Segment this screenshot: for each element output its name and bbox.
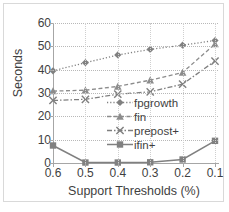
legend-label: ifin+ [134,139,155,151]
x-axis-tick [215,163,216,167]
y-axis-tick [49,46,53,47]
legend-item-prepost+[interactable]: prepost+ [107,124,179,137]
vertical-gridline [85,23,86,163]
triangle-marker-icon [107,111,133,122]
x-axis-tick [150,163,151,167]
x-axis-tick [118,163,119,167]
vertical-gridline [183,23,184,163]
legend-label: fpgrowth [134,97,178,109]
x-axis-tick-label: 0.1 [195,167,229,180]
gridline [53,93,218,94]
x-axis-tick [53,163,54,167]
x-axis-tick [85,163,86,167]
diamond-marker-icon [107,97,133,108]
legend-item-fpgrowth[interactable]: fpgrowth [107,96,179,109]
y-axis-tick [49,140,53,141]
series-line [53,41,215,71]
legend-label: prepost+ [134,125,179,137]
y-axis-tick [49,23,53,24]
series-line [53,44,215,91]
gridline [53,46,218,47]
y-axis-tick-label: 10 [7,134,51,146]
square-marker-icon [107,139,133,150]
y-axis-tick [49,93,53,94]
vertical-gridline [215,23,216,163]
y-axis-tick [49,116,53,117]
x-marker-icon [107,125,133,136]
x-axis-title: Support Thresholds (%) [39,184,229,198]
x-axis-tick [183,163,184,167]
x-marker-icon [116,127,123,134]
legend-item-fin[interactable]: fin [107,110,179,123]
y-axis-title: Seconds [11,33,25,113]
square-marker-icon [117,141,123,147]
y-axis-tick-label: 60 [7,17,51,29]
gridline [53,23,218,24]
square-marker-icon [50,142,56,148]
legend-item-ifin+[interactable]: ifin+ [107,138,179,151]
diamond-marker-icon [116,99,123,106]
series-fin [49,40,219,94]
chart-frame: 6050403020100 Seconds 0.60.50.40.30.20.1… [3,3,224,202]
y-axis-tick [49,70,53,71]
series-line [53,61,215,100]
legend-label: fin [134,111,146,123]
chart-legend: fpgrowthfinprepost+ifin+ [107,96,179,152]
gridline [53,70,218,71]
